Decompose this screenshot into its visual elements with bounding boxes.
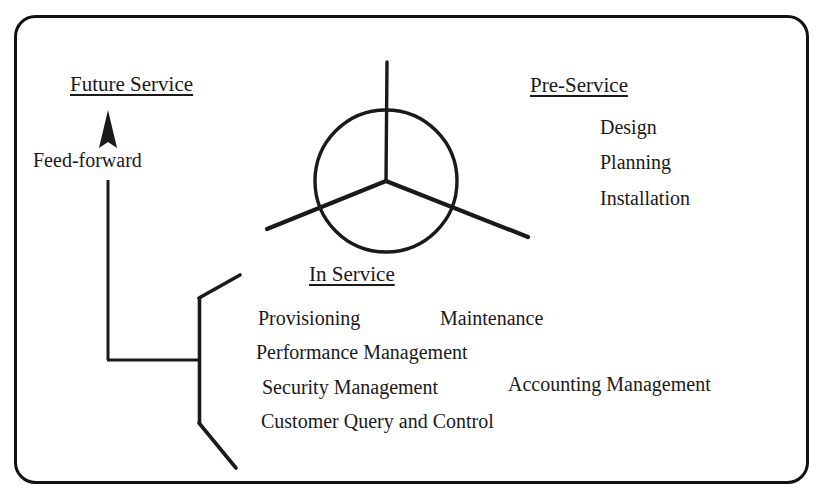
pre-service-item-planning: Planning <box>600 152 671 172</box>
in-service-item-security-management: Security Management <box>262 377 438 397</box>
feed-forward-arrow-icon <box>99 110 117 148</box>
hub-spoke-up-icon <box>386 62 387 181</box>
in-service-item-maintenance: Maintenance <box>440 308 543 328</box>
in-service-heading: In Service <box>309 264 395 285</box>
in-service-brace-upper-arm <box>199 275 240 298</box>
feed-forward-label: Feed-forward <box>33 150 142 170</box>
pre-service-heading: Pre-Service <box>530 75 628 96</box>
in-service-item-provisioning: Provisioning <box>258 308 360 328</box>
pre-service-item-installation: Installation <box>600 188 690 208</box>
in-service-item-accounting-management: Accounting Management <box>508 374 711 394</box>
in-service-item-customer-query-and-control: Customer Query and Control <box>261 411 494 431</box>
pre-service-item-design: Design <box>600 117 657 137</box>
in-service-brace-lower-arm <box>199 423 236 468</box>
future-service-heading: Future Service <box>70 74 193 95</box>
in-service-item-performance-management: Performance Management <box>256 342 468 362</box>
diagram-canvas: Future Service Feed-forward Pre-Service … <box>0 0 825 499</box>
